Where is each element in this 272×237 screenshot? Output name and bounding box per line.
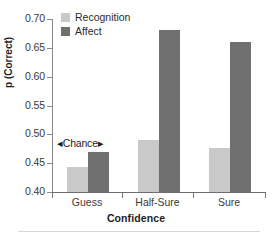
x-axis-title: Confidence <box>0 212 272 224</box>
y-tick-label: 0.70 <box>25 12 45 24</box>
bottom-divider <box>18 231 260 232</box>
legend-item-affect: Affect <box>61 25 130 37</box>
y-tick-label: 0.55 <box>25 99 45 111</box>
bar-recognition-half-sure <box>138 140 159 192</box>
x-tick-label-half-sure: Half-Sure <box>122 196 193 208</box>
bar-recognition-sure <box>209 148 230 192</box>
y-tick-label: 0.60 <box>25 70 45 82</box>
bar-chart-figure: 0.70 0.65 0.60 0.55 0.50 0.45 0.40 <box>0 0 272 237</box>
y-tick-label: 0.65 <box>25 41 45 53</box>
y-tick-label: 0.50 <box>25 127 45 139</box>
plot-area <box>52 19 266 192</box>
x-axis-line <box>52 192 266 193</box>
bar-affect-sure <box>230 42 251 192</box>
x-tick-label-guess: Guess <box>52 196 122 208</box>
y-tick-label: 0.40 <box>25 185 45 197</box>
legend: Recognition Affect <box>61 11 130 39</box>
bar-recognition-guess <box>67 167 88 192</box>
legend-label-affect: Affect <box>75 25 102 37</box>
x-tick-mark-end <box>265 193 266 198</box>
legend-item-recognition: Recognition <box>61 11 130 23</box>
bar-affect-guess <box>88 152 109 192</box>
legend-swatch-icon-recognition <box>61 13 70 22</box>
y-tick-label: 0.45 <box>25 156 45 168</box>
bar-affect-half-sure <box>159 30 180 192</box>
legend-swatch-icon-affect <box>61 27 70 36</box>
y-axis-title: p (Correct) <box>2 74 16 88</box>
x-tick-label-sure: Sure <box>193 196 265 208</box>
legend-label-recognition: Recognition <box>75 11 130 23</box>
chance-annotation: ◂Chance▸ <box>57 137 104 149</box>
